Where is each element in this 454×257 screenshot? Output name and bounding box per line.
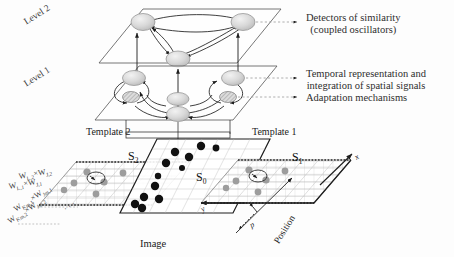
annotation-detectors-line1: Detectors of similarity	[306, 12, 400, 24]
s1-base: S	[292, 150, 299, 164]
template2-label: Template 2	[86, 126, 131, 137]
s2-sub: 2	[135, 156, 139, 165]
surface-label-s2: S2	[128, 149, 138, 165]
oscillator-node-icon	[123, 71, 146, 86]
surface-label-s0: S0	[196, 170, 206, 186]
oscillator-node-icon	[231, 14, 255, 31]
figure-canvas: Level 2 Level 1 Detectors of similarity …	[0, 0, 454, 257]
s0-base: S	[196, 170, 203, 184]
s2-base: S	[128, 149, 135, 163]
oscillator-node-icon	[167, 107, 190, 122]
template1-label: Template 1	[252, 126, 297, 137]
surface-label-s1: S1	[292, 150, 302, 166]
oscillator-node-icon	[131, 14, 155, 31]
annotation-detectors: Detectors of similarity (coupled oscilla…	[306, 12, 400, 35]
annotation-temporal: Temporal representation and integration …	[306, 68, 426, 91]
annotation-temporal-line2: integration of spatial signals	[306, 80, 426, 92]
hatched-node-icon	[123, 92, 140, 103]
diagram-svg	[0, 0, 454, 257]
image-label: Image	[140, 238, 166, 249]
annotation-adaptation-line1: Adaptation mechanisms	[306, 92, 407, 104]
oscillator-node-icon	[222, 71, 245, 86]
oscillator-node-icon	[167, 93, 189, 106]
s0-sub: 0	[203, 177, 207, 186]
annotation-temporal-line1: Temporal representation and	[306, 68, 426, 80]
oscillator-node-icon	[166, 51, 190, 67]
annotation-detectors-line2: (coupled oscillators)	[306, 24, 400, 36]
annotation-adaptation: Adaptation mechanisms	[306, 92, 407, 104]
hatched-node-icon	[220, 92, 237, 103]
p-tick	[253, 207, 257, 212]
w-r1-s2: J,2	[46, 171, 53, 178]
s1-sub: 1	[299, 157, 303, 166]
level2-plane	[99, 9, 281, 63]
